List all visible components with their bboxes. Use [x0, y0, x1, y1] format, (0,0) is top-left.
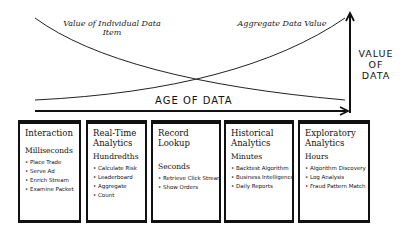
category-box-exploratory-analytics: Exploratory Analytics Hours Algorithm Di…: [298, 120, 370, 223]
list-item: Calculate Risk: [93, 164, 140, 173]
category-timescale: Hours: [305, 152, 363, 161]
category-box-record-lookup: Record Lookup Seconds Retrieve Click Str…: [151, 120, 221, 223]
category-items: Calculate Risk Leaderboard Aggregate Cou…: [93, 164, 140, 200]
category-items: Place Trade Serve Ad Enrich Stream Exami…: [25, 158, 74, 194]
list-item: Aggregate: [93, 182, 140, 191]
list-item: Business Intelligence: [231, 173, 287, 182]
list-item: Daily Reports: [231, 182, 287, 191]
list-item: Enrich Stream: [25, 176, 74, 185]
category-title: Historical Analytics: [231, 128, 287, 148]
list-item: Leaderboard: [93, 173, 140, 182]
list-item: Retrieve Click Stream: [158, 174, 214, 183]
category-box-real-time-analytics: Real-Time Analytics Hundredths Calculate…: [86, 120, 147, 223]
y-axis-label-line: VALUE: [352, 48, 400, 59]
individual-value-label: Value of Individual Data Item: [62, 19, 162, 37]
category-title: Interaction: [25, 128, 74, 138]
list-item: Count: [93, 191, 140, 200]
list-item: Place Trade: [25, 158, 74, 167]
category-title: Record Lookup: [158, 128, 214, 148]
category-timescale: Seconds: [158, 162, 214, 171]
y-axis-label-line: DATA: [352, 70, 400, 81]
list-item: Fraud Pattern Match: [305, 182, 363, 191]
y-axis-label: VALUE OF DATA: [352, 48, 400, 81]
aggregate-value-label: Aggregate Data Value: [232, 19, 332, 28]
list-item: Algorithm Discovery: [305, 164, 363, 173]
list-item: Log Analysis: [305, 173, 363, 182]
list-item: Show Orders: [158, 183, 214, 192]
category-timescale: Hundredths: [93, 152, 140, 161]
category-timescale: Milliseconds: [25, 146, 74, 155]
category-title: Real-Time Analytics: [93, 128, 140, 148]
x-axis-label: AGE OF DATA: [155, 95, 232, 106]
list-item: Examine Packet: [25, 185, 74, 194]
category-items: Algorithm Discovery Log Analysis Fraud P…: [305, 164, 363, 191]
category-box-historical-analytics: Historical Analytics Minutes Backtest Al…: [224, 120, 294, 223]
category-items: Retrieve Click Stream Show Orders: [158, 174, 214, 192]
category-timescale: Minutes: [231, 152, 287, 161]
list-item: Serve Ad: [25, 167, 74, 176]
y-axis-label-line: OF: [352, 59, 400, 70]
category-box-interaction: Interaction Milliseconds Place Trade Ser…: [18, 120, 81, 223]
category-title: Exploratory Analytics: [305, 128, 363, 148]
list-item: Backtest Algorithm: [231, 164, 287, 173]
category-items: Backtest Algorithm Business Intelligence…: [231, 164, 287, 191]
